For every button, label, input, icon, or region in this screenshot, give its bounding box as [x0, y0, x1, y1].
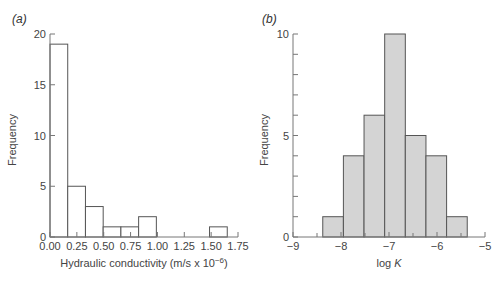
y-tick-label: 5 — [283, 130, 289, 142]
histogram-bar — [323, 217, 344, 237]
y-tick-label: 15 — [34, 79, 46, 91]
histogram-bar — [139, 217, 157, 237]
histogram-bar — [121, 227, 139, 237]
x-tick-label: −5 — [479, 240, 492, 252]
x-tick-label: −6 — [431, 240, 444, 252]
y-axis-label-b: Frequency — [258, 114, 270, 166]
histogram-b: (b) 0510−9−8−7−6−5 Frequency log K — [258, 12, 491, 269]
figure: (a) 051015200.000.250.500.751.001.251.50… — [0, 0, 496, 283]
histogram-bar — [210, 227, 228, 237]
histogram-bar — [364, 115, 385, 237]
y-tick-label: 5 — [40, 180, 46, 192]
x-tick-label: −9 — [287, 240, 300, 252]
x-axis-label-b: log K — [376, 257, 402, 269]
histogram-bar — [447, 217, 468, 237]
histogram-bar — [343, 156, 364, 237]
panel-label-a: (a) — [12, 12, 27, 26]
y-axis-label-a: Frequency — [6, 114, 18, 166]
histogram-bar — [103, 227, 121, 237]
histogram-a-bars — [50, 44, 227, 237]
x-tick-label: 1.25 — [174, 240, 195, 252]
x-tick-label: 0.75 — [120, 240, 141, 252]
y-tick-label: 10 — [34, 130, 46, 142]
x-tick-label: 0.00 — [39, 240, 60, 252]
histogram-bar — [405, 136, 426, 238]
y-tick-label: 10 — [277, 28, 289, 40]
histogram-bar — [85, 207, 103, 237]
histogram-bar — [385, 34, 406, 237]
y-tick-label: 20 — [34, 28, 46, 40]
x-axis-label-a: Hydraulic conductivity (m/s x 10−6) — [60, 256, 227, 269]
x-tick-label: 1.75 — [227, 240, 248, 252]
x-tick-label: 1.50 — [200, 240, 221, 252]
panel-label-b: (b) — [262, 12, 277, 26]
x-tick-label: −7 — [383, 240, 396, 252]
histogram-bar — [68, 186, 86, 237]
histogram-bar — [50, 44, 68, 237]
histogram-bar — [426, 156, 447, 237]
x-tick-label: 0.25 — [66, 240, 87, 252]
x-tick-label: −8 — [335, 240, 348, 252]
x-tick-label: 0.50 — [93, 240, 114, 252]
x-tick-label: 1.00 — [147, 240, 168, 252]
histogram-b-bars — [323, 34, 467, 237]
histogram-a: (a) 051015200.000.250.500.751.001.251.50… — [6, 12, 249, 269]
